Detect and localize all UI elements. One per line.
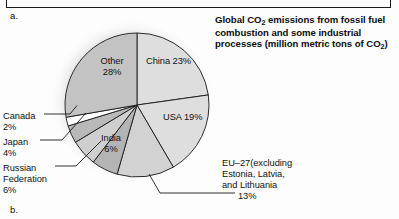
slice-label-canada: Canada 2% — [3, 111, 35, 133]
figure-panel: a. b. Global CO2 emissions from fossil f… — [0, 0, 399, 219]
slice-label-india-name: India — [101, 133, 121, 143]
slice-label-russia: Russian Federation 6% — [3, 163, 47, 196]
slice-label-eu27-line1: EU–27(excluding — [222, 158, 292, 168]
slice-label-other: Other 28% — [89, 56, 135, 78]
slice-label-eu27-line2: Estonia, Latvia, — [222, 169, 285, 179]
slice-label-japan-name: Japan — [3, 137, 28, 147]
slice-label-canada-name: Canada — [3, 111, 35, 121]
slice-label-eu27-line3: and Lithuania — [222, 180, 277, 190]
slice-label-russia-line2: Federation — [3, 174, 47, 184]
slice-label-japan-pct: 4% — [3, 148, 16, 158]
slice-label-japan: Japan 4% — [3, 137, 28, 159]
slice-label-india: India 6% — [95, 133, 127, 155]
slice-label-eu27: EU–27(excluding Estonia, Latvia, and Lit… — [222, 158, 332, 191]
slice-label-usa: USA 19% — [163, 112, 202, 123]
pie-slice-china[interactable] — [137, 33, 208, 105]
slice-label-india-pct: 6% — [104, 144, 117, 154]
slice-label-eu27-pct: 13% — [238, 191, 256, 202]
slice-label-other-pct: 28% — [103, 67, 121, 77]
slice-label-china: China 23% — [146, 56, 191, 67]
slice-label-canada-pct: 2% — [3, 122, 16, 132]
slice-label-russia-line1: Russian — [3, 163, 36, 173]
slice-label-other-name: Other — [100, 56, 123, 66]
slice-label-russia-pct: 6% — [3, 185, 16, 195]
pie-chart-svg — [0, 0, 399, 219]
